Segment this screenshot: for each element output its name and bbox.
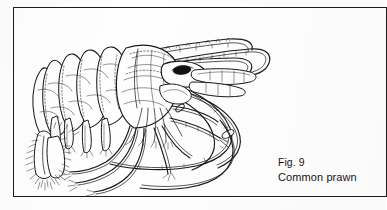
prawn-line-drawing: .ln { fill:none; stroke:#1a1a1a; stroke-… [14, 8, 288, 196]
antenna-foreground [140, 120, 234, 189]
figure-frame: .ln { fill:none; stroke:#1a1a1a; stroke-… [13, 7, 387, 197]
prawn-illustration: .ln { fill:none; stroke:#1a1a1a; stroke-… [14, 8, 288, 196]
figure-caption: Fig. 9 Common prawn [278, 156, 386, 184]
figure-number-label: Fig. 9 [278, 156, 386, 170]
head-front [160, 61, 256, 104]
abdomen [33, 47, 129, 140]
figure-title-label: Common prawn [278, 170, 386, 184]
